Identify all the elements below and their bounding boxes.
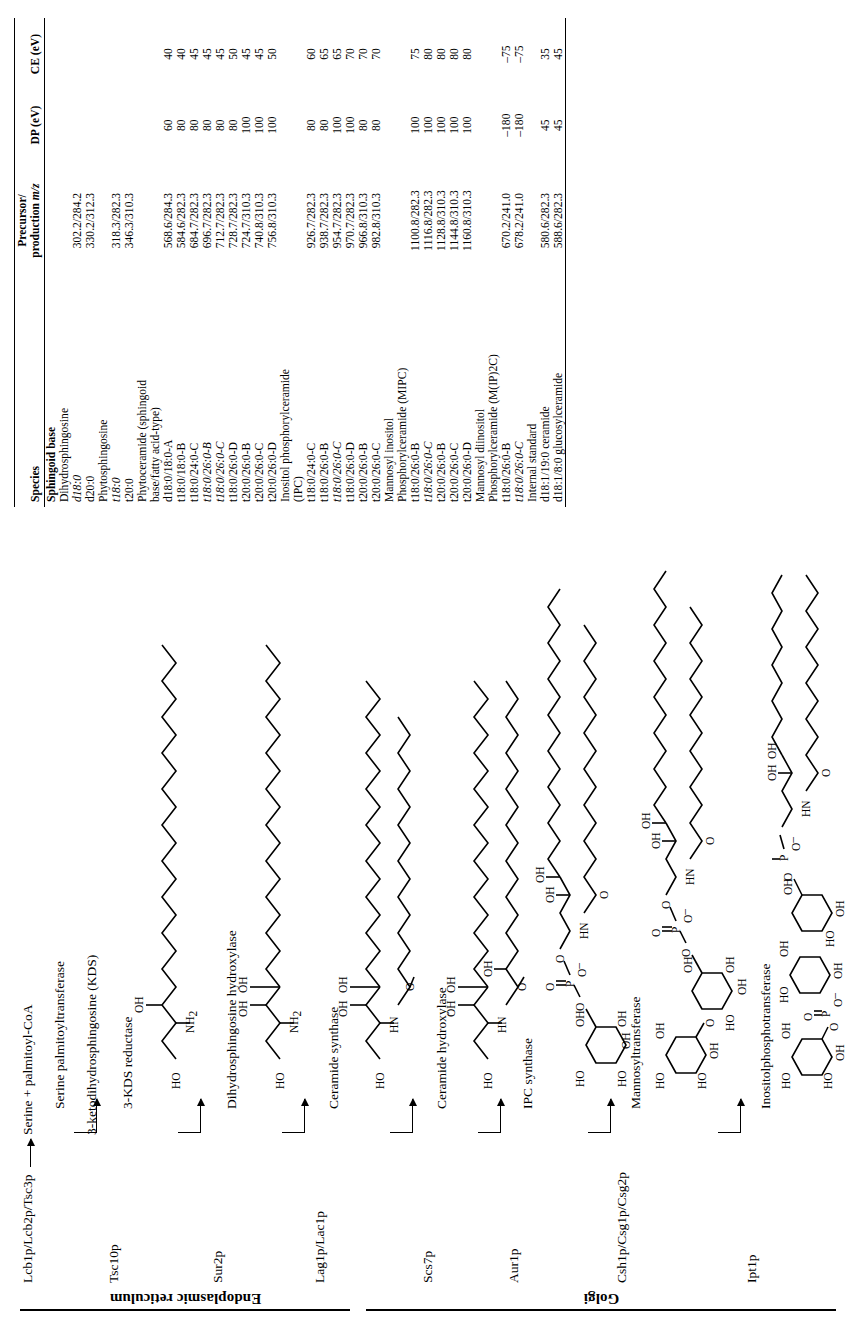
label-oh-ring2: OH [616,1010,628,1027]
label-oh-ring1: OH [620,1032,632,1049]
cell-precursor-product-mz: 696.7/282.3 [201,160,214,281]
cell-species: t20:0/26:0-C [370,281,383,507]
cell-precursor-product-mz: 684.7/282.3 [188,160,201,281]
cell-precursor-product-mz: 954.7/282.3 [331,160,344,281]
cell-ce: 35 [539,18,552,90]
table-row: t18:0/24:0-C684.7/282.38045 [188,18,201,507]
label-oh-m3: OH [708,1042,720,1059]
table-row: t18:0/26:0-D728.7/282.38050 [227,18,240,507]
cell-precursor-product-mz: 678.2/241.0 [513,160,526,281]
cell-ce [97,18,110,90]
cell-species: d18:0/18:0-A [162,281,175,507]
column-header-precursor-product-mz: Precursor/ production m/z [15,160,45,281]
cell-dp [123,90,136,160]
cell-dp [44,90,58,160]
cell-ce [396,18,409,90]
label-oh-i2: OH [834,900,846,917]
cell-dp [71,90,84,160]
label-hn: HN [388,1016,400,1033]
label-ho-m1: HO [778,986,790,1003]
cell-ce: 70 [370,18,383,90]
cell-precursor-product-mz [149,160,162,281]
label-o-link: O [574,1003,586,1011]
table-row: t18:0/26:0-C954.7/282.310065 [331,18,344,507]
label-nh2: NH2 [288,1010,303,1033]
cell-species: t18:0/18:0-B [175,281,188,507]
cell-ce [44,18,58,90]
table-row: Inositol phosphorylceramide [279,18,292,507]
cell-species: Phytoceramide (sphingoid [136,281,149,507]
label-o-amide: O [598,891,610,899]
cell-ce [383,18,396,90]
cell-precursor-product-mz [474,160,487,281]
label-oh-d: OH [534,866,546,883]
cell-dp [58,90,71,160]
cell-precursor-product-mz: 1116.8/282.3 [422,160,435,281]
cell-dp: 45 [552,90,566,160]
cell-precursor-product-mz: 318.3/282.3 [110,160,123,281]
gene-lag1p-lac1p: Lag1p/Lac1p [312,1211,328,1283]
cell-ce: 45 [253,18,266,90]
label-o-link: O [782,873,794,881]
cell-dp: 80 [175,90,188,160]
cell-dp: 60 [162,90,175,160]
table-row: base/fatty acid-type) [149,18,162,507]
cell-dp: 100 [422,90,435,160]
label-ho-i1: HO [724,1014,736,1031]
cell-ce [58,18,71,90]
cell-species: t20:0/26:0-C [448,281,461,507]
cell-species: Mannosyl diinositol [474,281,487,507]
cell-precursor-product-mz: 588.6/282.3 [552,160,566,281]
label-oh-2: OH [237,976,249,993]
cell-dp: 80 [370,90,383,160]
structure-phytoceramide: HO OH OH HN O [340,529,414,1089]
cell-ce [526,18,539,90]
column-header-ce: CE (eV) [15,18,45,90]
label-oh-1: OH [445,1000,457,1017]
header-line-1: Precursor/ [16,194,29,247]
cell-ce: 70 [344,18,357,90]
cell-ce: 70 [357,18,370,90]
label-o-amide: O [820,769,832,777]
cell-ce: 80 [448,18,461,90]
cell-precursor-product-mz [58,160,71,281]
cell-dp: 100 [409,90,422,160]
label-hn: HN [800,800,812,817]
label-o-px: O [828,1023,840,1031]
ms-parameter-table: Species Precursor/ production m/z DP (eV… [14,18,566,507]
cell-species: d20:0 [84,281,97,507]
cell-species: Phytosphingosine [97,281,110,507]
rotated-page-wrapper: Endoplasmic reticulum Golgi Lcb1p/Lcb2p/… [0,0,848,1327]
cell-ce: 50 [227,18,240,90]
figure-canvas: Endoplasmic reticulum Golgi Lcb1p/Lcb2p/… [0,0,848,1327]
cell-species: t18:0/26:0-B [201,281,214,507]
reaction-arrow-1 [30,1139,31,1167]
cell-species: t18:0/26:0-C [331,281,344,507]
metabolite-serine-palmitoyl-coa: Serine + palmitoyl-CoA [20,1004,36,1135]
cell-ce [487,18,500,90]
cell-ce [136,18,149,90]
label-ho-m1: HO [654,1072,666,1089]
cell-species: t20:0/26:0-B [435,281,448,507]
cell-ce [149,18,162,90]
cell-precursor-product-mz: 970.7/282.3 [344,160,357,281]
cell-precursor-product-mz: 712.7/282.3 [214,160,227,281]
cell-dp: 80 [214,90,227,160]
cell-ce: 45 [552,18,566,90]
cell-ce: 75 [409,18,422,90]
label-o: O [404,983,416,991]
table-row: t20:0/26:0-C740.8/310.310045 [253,18,266,507]
table-row: d20:0330.2/312.3 [84,18,97,507]
cell-species: t18:0/24:0-C [305,281,318,507]
label-ho: HO [482,1072,494,1089]
cell-ce: 50 [266,18,279,90]
label-p: P [778,855,790,861]
label-ho-i1: HO [824,930,836,947]
table-row: t18:0/26:0-C1116.8/282.310080 [422,18,435,507]
label-oh-c: OH [544,886,556,903]
cell-species: base/fatty acid-type) [149,281,162,507]
table-row: t18:0/26:0-B938.7/282.38065 [318,18,331,507]
reaction-arrow-6 [500,1099,501,1133]
cell-precursor-product-mz [44,160,58,281]
label-oh-ring3: OH [574,1010,586,1027]
